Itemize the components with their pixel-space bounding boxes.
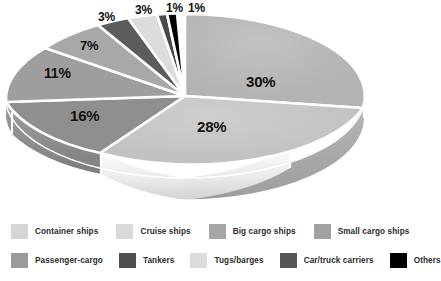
pie-svg xyxy=(0,0,400,215)
legend-item-cruise-ships[interactable]: Cruise ships xyxy=(116,224,190,239)
legend-row-1: Container ships Cruise ships Big cargo s… xyxy=(0,219,400,243)
slice-label-car-truck-carriers: 1% xyxy=(166,2,183,14)
legend-swatch-tankers xyxy=(119,253,136,268)
legend-label-others: Others xyxy=(414,256,441,265)
legend-swatch-container-ships xyxy=(11,224,28,239)
legend-label-car-truck-carriers: Car/truck carriers xyxy=(304,256,374,265)
slice-label-container-ships: 30% xyxy=(246,74,275,89)
legend-label-passenger-cargo: Passenger-cargo xyxy=(35,256,103,265)
legend-swatch-passenger-cargo xyxy=(11,253,28,268)
pie-slices xyxy=(6,13,365,164)
slice-label-cruise-ships: 28% xyxy=(197,119,226,134)
chart-legend: Container ships Cruise ships Big cargo s… xyxy=(0,216,400,281)
slice-label-others: 1% xyxy=(188,2,205,14)
legend-swatch-big-cargo-ships xyxy=(209,224,226,239)
legend-label-big-cargo-ships: Big cargo ships xyxy=(233,227,296,236)
slice-label-passenger-cargo: 7% xyxy=(80,39,98,52)
legend-label-container-ships: Container ships xyxy=(35,227,98,236)
pie-plot-area: 30% 28% 16% 11% 7% 3% 3% 1% 1% xyxy=(0,0,400,215)
slice-label-tugs-barges: 3% xyxy=(135,4,152,16)
legend-item-others[interactable]: Others xyxy=(390,253,441,268)
slice-label-tankers: 3% xyxy=(98,11,115,23)
legend-row-2: Passenger-cargo Tankers Tugs/barges Car/… xyxy=(0,248,400,272)
legend-swatch-small-cargo-ships xyxy=(314,224,331,239)
legend-item-small-cargo-ships[interactable]: Small cargo ships xyxy=(314,224,410,239)
legend-item-big-cargo-ships[interactable]: Big cargo ships xyxy=(209,224,296,239)
legend-swatch-others xyxy=(390,253,407,268)
legend-swatch-cruise-ships xyxy=(116,224,133,239)
slice-label-big-cargo-ships: 16% xyxy=(70,108,99,123)
legend-label-tankers: Tankers xyxy=(143,256,175,265)
legend-label-small-cargo-ships: Small cargo ships xyxy=(338,227,410,236)
legend-item-car-truck-carriers[interactable]: Car/truck carriers xyxy=(280,253,374,268)
legend-label-tugs-barges: Tugs/barges xyxy=(214,256,263,265)
pie-slice-container-ships-sheen xyxy=(185,14,365,108)
legend-item-tankers[interactable]: Tankers xyxy=(119,253,175,268)
legend-swatch-car-truck-carriers xyxy=(280,253,297,268)
legend-item-passenger-cargo[interactable]: Passenger-cargo xyxy=(11,253,103,268)
legend-label-cruise-ships: Cruise ships xyxy=(140,227,190,236)
slice-label-small-cargo-ships: 11% xyxy=(44,66,71,80)
legend-item-tugs-barges[interactable]: Tugs/barges xyxy=(190,253,263,268)
legend-swatch-tugs-barges xyxy=(190,253,207,268)
legend-item-container-ships[interactable]: Container ships xyxy=(11,224,98,239)
